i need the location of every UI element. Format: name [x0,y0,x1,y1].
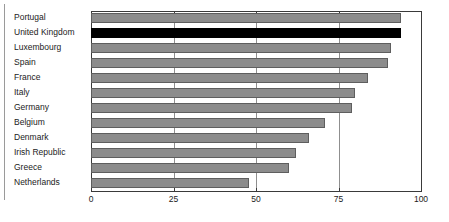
axis-tick-top [421,11,422,15]
bar [91,178,249,188]
axis-tick-bottom [256,188,257,192]
bar [91,118,325,128]
bar [91,73,368,83]
category-label: United Kingdom [14,25,88,40]
bar [91,133,309,143]
category-label: Netherlands [14,175,88,190]
category-label: France [14,70,88,85]
axis-tick-bottom [91,188,92,192]
value-axis-tick-label: 25 [159,194,189,204]
bar [91,43,391,53]
axis-line-right [421,11,422,192]
bar [91,13,401,23]
category-label: Luxembourg [14,40,88,55]
bar [91,58,388,68]
value-axis-tick-label: 75 [324,194,354,204]
bar [91,88,355,98]
category-label: Portugal [14,10,88,25]
bar [91,28,401,38]
bar [91,103,352,113]
axis-tick-bottom [339,188,340,192]
category-label: Germany [14,100,88,115]
left-border-rule [4,4,5,200]
category-label: Belgium [14,115,88,130]
value-axis-tick-label: 50 [241,194,271,204]
category-label: Spain [14,55,88,70]
bar-chart: PortugalUnited KingdomLuxembourgSpainFra… [0,0,449,222]
category-label: Greece [14,160,88,175]
gridline [339,11,340,191]
value-axis-tick-label: 100 [406,194,436,204]
category-axis-labels: PortugalUnited KingdomLuxembourgSpainFra… [14,10,88,190]
bar [91,163,289,173]
bar [91,148,296,158]
axis-tick-bottom [174,188,175,192]
category-label: Italy [14,85,88,100]
category-label: Denmark [14,130,88,145]
axis-tick-bottom [421,188,422,192]
value-axis-tick-label: 0 [76,194,106,204]
category-label: Irish Republic [14,145,88,160]
